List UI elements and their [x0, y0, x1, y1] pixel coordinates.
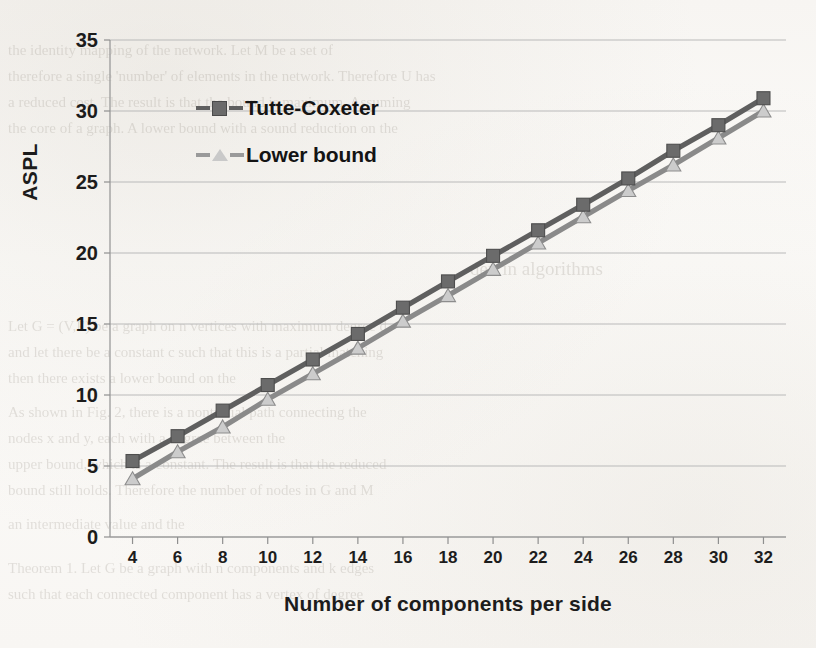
x-tick-label: 18 [428, 548, 468, 568]
x-tick-label: 24 [563, 548, 603, 568]
legend-item-tutte-coxeter: Tutte-Coxeter [196, 96, 379, 120]
data-point-marker-square [351, 327, 364, 340]
legend-square-marker-icon [212, 101, 227, 116]
x-tick-label: 8 [203, 548, 243, 568]
y-tick-label: 35 [52, 29, 98, 52]
y-tick-label: 20 [52, 242, 98, 265]
legend-triangle-marker-icon [212, 149, 228, 161]
data-point-marker-square [712, 119, 725, 132]
data-point-marker-square [261, 379, 274, 392]
legend-line-lower-bound [196, 153, 210, 157]
x-tick-label: 6 [158, 548, 198, 568]
data-point-marker-square [171, 430, 184, 443]
data-point-marker-square [442, 275, 455, 288]
legend-label-tutte-coxeter: Tutte-Coxeter [245, 96, 379, 120]
x-tick-label: 26 [608, 548, 648, 568]
legend-line-lower-bound-right [230, 153, 244, 157]
x-tick-label: 28 [653, 548, 693, 568]
x-tick-label: 14 [338, 548, 378, 568]
x-tick-label: 22 [518, 548, 558, 568]
data-point-marker-square [126, 455, 139, 468]
data-point-marker-square [532, 224, 545, 237]
y-tick-label: 30 [52, 100, 98, 123]
data-point-marker-square [216, 404, 229, 417]
x-tick-label: 32 [743, 548, 783, 568]
data-point-marker-square [577, 198, 590, 211]
y-tick-label: 15 [52, 313, 98, 336]
data-point-marker-square [757, 92, 770, 105]
y-axis-tick-labels: 05101520253035 [48, 0, 98, 648]
x-tick-label: 30 [698, 548, 738, 568]
y-axis-title: ASPL [18, 112, 42, 232]
legend-line-tutte-coxeter [196, 106, 210, 110]
x-tick-label: 20 [473, 548, 513, 568]
x-tick-label: 10 [248, 548, 288, 568]
x-axis-title: Number of components per side [110, 592, 786, 616]
y-tick-label: 5 [52, 455, 98, 478]
x-tick-label: 4 [113, 548, 153, 568]
y-tick-label: 10 [52, 384, 98, 407]
data-point-marker-square [306, 353, 319, 366]
y-tick-label: 25 [52, 171, 98, 194]
x-tick-label: 16 [383, 548, 423, 568]
aspl-line-chart: 05101520253035 4681012141618202224262830… [0, 0, 816, 648]
legend-item-lower-bound: Lower bound [196, 143, 377, 167]
x-tick-label: 12 [293, 548, 333, 568]
data-point-marker-square [667, 144, 680, 157]
legend-label-lower-bound: Lower bound [246, 143, 377, 167]
data-point-marker-square [396, 301, 409, 314]
y-tick-label: 0 [52, 526, 98, 549]
data-point-marker-square [487, 249, 500, 262]
data-point-marker-square [622, 172, 635, 185]
legend-line-tutte-coxeter-right [229, 106, 243, 110]
